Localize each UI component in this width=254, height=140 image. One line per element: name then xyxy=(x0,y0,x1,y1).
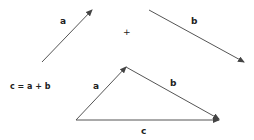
triangle-label-a: a xyxy=(93,82,99,91)
equation: c = a + b xyxy=(10,83,50,91)
vector-diagram xyxy=(0,0,254,140)
triangle-b-arrow xyxy=(126,67,219,119)
triangle-label-c: c xyxy=(141,127,146,136)
triangle-label-b: b xyxy=(170,79,176,88)
label-a: a xyxy=(60,17,66,26)
label-b: b xyxy=(191,17,197,26)
vector-a-arrow xyxy=(42,10,92,62)
plus-sign: + xyxy=(123,28,131,37)
triangle-a-arrow xyxy=(76,67,126,120)
